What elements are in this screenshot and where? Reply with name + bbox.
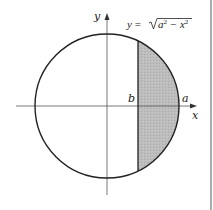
equation-equals: = [132,18,141,30]
equation-label: y = a2 − x2 [126,18,192,30]
svg-text:y =: y = [126,18,141,30]
x-axis-label: x [192,109,199,122]
y-axis-label: y [93,10,101,23]
x-axis-arrow-icon [190,104,197,109]
svg-text:a2 − x2: a2 − x2 [158,18,189,30]
b-label: b [128,92,135,105]
y-axis-arrow-icon [105,13,110,20]
circle-diagram: y x b a y = a2 − x2 [0,0,213,210]
a-label: a [182,92,189,105]
